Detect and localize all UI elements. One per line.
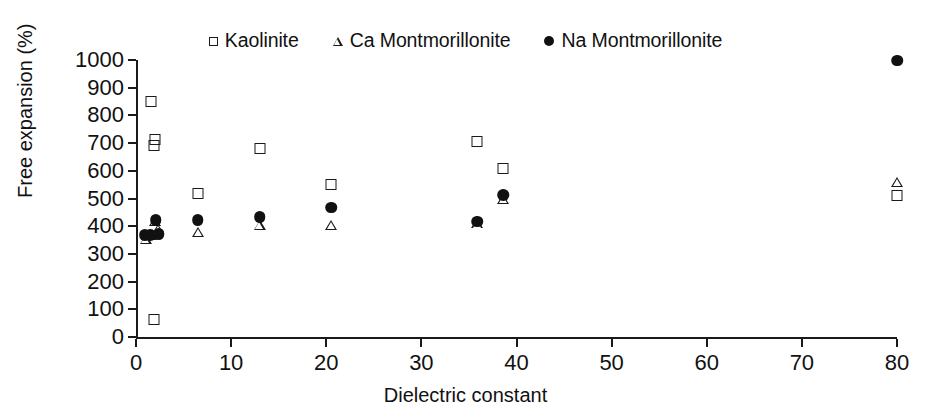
open-square-marker-icon <box>326 179 337 190</box>
data-point <box>472 213 484 231</box>
x-axis-tick <box>611 339 613 347</box>
open-triangle-marker-icon <box>891 177 903 187</box>
x-axis-tick-label: 50 <box>599 350 623 376</box>
filled-circle-marker-icon <box>891 55 903 67</box>
filled-circle-marker-icon <box>192 214 204 226</box>
x-axis-tick-label: 30 <box>409 350 433 376</box>
y-axis-tick-label: 700 <box>87 130 124 156</box>
filled-circle-marker-icon <box>472 216 484 228</box>
y-axis-tick <box>128 114 136 116</box>
y-axis-tick-label: 300 <box>87 241 124 267</box>
y-axis-tick <box>128 87 136 89</box>
legend-entry-label: Na Montmorillonite <box>561 31 722 51</box>
y-axis-tick <box>128 170 136 172</box>
data-point <box>325 199 337 217</box>
legend-entry-label: Kaolinite <box>225 31 299 51</box>
data-point <box>254 209 266 227</box>
data-point <box>498 160 509 178</box>
x-axis-tick <box>896 339 898 347</box>
filled-circle-marker-icon <box>153 228 165 240</box>
data-point <box>146 93 157 111</box>
x-axis-tick <box>135 339 137 347</box>
chart-legend: KaoliniteCa MontmorilloniteNa Montmorill… <box>0 26 931 56</box>
data-point <box>891 173 903 191</box>
open-square-marker-icon <box>472 136 483 147</box>
y-axis-tick <box>128 336 136 338</box>
y-axis-tick <box>128 59 136 61</box>
x-axis-tick-label: 80 <box>885 350 909 376</box>
open-square-marker-icon <box>209 37 218 46</box>
y-axis-tick-label: 100 <box>87 296 124 322</box>
scatter-chart-figure: KaoliniteCa MontmorilloniteNa Montmorill… <box>0 0 931 419</box>
open-triangle-marker-icon <box>325 220 337 230</box>
y-axis-title: Free expansion (%) <box>14 23 37 198</box>
y-axis-tick-label: 400 <box>87 213 124 239</box>
x-axis-tick-label: 0 <box>130 350 142 376</box>
filled-circle-marker-icon <box>497 189 509 201</box>
data-point <box>497 187 509 205</box>
data-point <box>325 216 337 234</box>
y-axis-tick <box>128 253 136 255</box>
y-axis-line <box>136 60 138 338</box>
y-axis-tick-label: 0 <box>112 324 124 350</box>
y-axis-tick-label: 200 <box>87 269 124 295</box>
filled-circle-marker-icon <box>325 202 337 214</box>
open-square-marker-icon <box>149 314 160 325</box>
x-axis-tick-label: 60 <box>695 350 719 376</box>
legend-entry[interactable]: Na Montmorillonite <box>544 31 722 51</box>
y-axis-tick <box>128 308 136 310</box>
y-axis-tick <box>128 281 136 283</box>
data-point <box>150 131 161 149</box>
filled-circle-marker-icon <box>254 211 266 223</box>
data-point <box>153 226 165 244</box>
data-point <box>326 176 337 194</box>
y-axis-tick-label: 1000 <box>75 47 124 73</box>
plot-area: 01002003004005006007008009001000 0102030… <box>136 60 897 337</box>
x-axis-tick-label: 20 <box>314 350 338 376</box>
y-axis-tick <box>128 225 136 227</box>
legend-entry-label: Ca Montmorillonite <box>350 31 511 51</box>
legend-entry[interactable]: Ca Montmorillonite <box>333 31 511 51</box>
x-axis-tick-label: 10 <box>219 350 243 376</box>
data-point <box>192 212 204 230</box>
open-square-marker-icon <box>498 163 509 174</box>
filled-circle-marker-icon <box>544 36 554 46</box>
open-square-marker-icon <box>150 134 161 145</box>
open-square-marker-icon <box>892 190 903 201</box>
data-point <box>472 133 483 151</box>
x-axis-tick <box>706 339 708 347</box>
y-axis-tick-label: 500 <box>87 186 124 212</box>
x-axis-tick <box>801 339 803 347</box>
open-triangle-marker-icon <box>333 37 343 46</box>
filled-circle-marker-icon <box>150 214 162 226</box>
x-axis-tick <box>420 339 422 347</box>
data-point <box>254 140 265 158</box>
x-axis-tick-label: 40 <box>504 350 528 376</box>
y-axis-tick-label: 600 <box>87 158 124 184</box>
y-axis-tick-label: 900 <box>87 75 124 101</box>
legend-entry[interactable]: Kaolinite <box>209 31 299 51</box>
open-square-marker-icon <box>192 188 203 199</box>
x-axis-tick <box>325 339 327 347</box>
x-axis-tick <box>516 339 518 347</box>
y-axis-tick-label: 800 <box>87 102 124 128</box>
data-point <box>149 311 160 329</box>
x-axis-title: Dielectric constant <box>0 384 931 407</box>
x-axis-tick-label: 70 <box>790 350 814 376</box>
x-axis-tick <box>230 339 232 347</box>
data-point <box>891 52 903 70</box>
y-axis-tick <box>128 198 136 200</box>
data-point <box>192 185 203 203</box>
open-square-marker-icon <box>146 96 157 107</box>
open-square-marker-icon <box>254 143 265 154</box>
y-axis-tick <box>128 142 136 144</box>
